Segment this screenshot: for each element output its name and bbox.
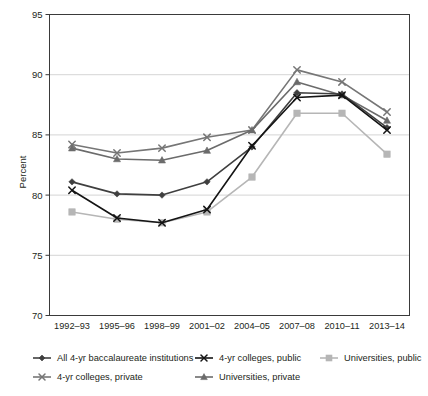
- square-marker-icon: [294, 110, 300, 116]
- square-marker-icon: [326, 355, 332, 361]
- legend-label: Universities, private: [219, 372, 300, 382]
- legend-label: 4-yr colleges, public: [219, 353, 302, 363]
- x-tick-label: 1998–99: [144, 321, 180, 331]
- x-tick-label: 2001–02: [189, 321, 225, 331]
- legend-label: 4-yr colleges, private: [57, 372, 143, 382]
- x-tick-label: 2010–11: [324, 321, 359, 331]
- x-tick-label: 1995–96: [99, 321, 135, 331]
- x-tick-label: 2004–05: [234, 321, 270, 331]
- y-tick-label: 75: [32, 250, 43, 261]
- legend-label: All 4-yr baccalaureate institutions: [57, 353, 194, 363]
- y-tick-label: 70: [32, 310, 43, 321]
- graduation-rate-line-chart: 707580859095 1992–931995–961998–992001–0…: [0, 0, 428, 396]
- x-tick-label: 2007–08: [279, 321, 315, 331]
- square-marker-icon: [384, 151, 390, 157]
- line-chart-container: 707580859095 1992–931995–961998–992001–0…: [0, 0, 428, 396]
- legend-label: Universities, public: [344, 353, 422, 363]
- x-tick-label: 2013–14: [369, 321, 405, 331]
- chart-background: [0, 0, 428, 396]
- square-marker-icon: [69, 209, 75, 215]
- y-tick-label: 90: [32, 69, 43, 80]
- y-tick-label: 95: [32, 9, 43, 20]
- y-tick-label: 85: [32, 129, 43, 140]
- square-marker-icon: [339, 110, 345, 116]
- square-marker-icon: [249, 174, 255, 180]
- y-tick-label: 80: [32, 190, 43, 201]
- y-axis-title: Percent: [17, 155, 28, 188]
- legend-item[interactable]: All 4-yr baccalaureate institutions: [33, 353, 194, 363]
- x-tick-label: 1992–93: [54, 321, 90, 331]
